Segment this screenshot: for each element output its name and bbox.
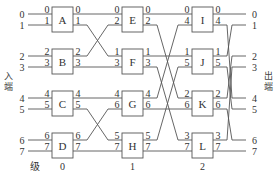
switch-out-port-label: 3 [146,57,151,68]
switch-in-port-label: 4 [185,15,190,26]
output-port-label: 1 [252,20,257,31]
switch-out-port-label: 4 [146,88,151,99]
switch-out-port-label: 2 [216,88,221,99]
stage-number-label: 1 [130,161,135,172]
switch-out-port-label: 1 [146,46,151,57]
switch-label: E [129,14,136,26]
switch-out-port-label: 4 [76,88,81,99]
switch-e: E0202 [115,4,151,33]
switch-label: F [129,56,135,68]
stage-number-label: 2 [200,161,205,172]
switch-d: D6767 [45,130,81,159]
switch-out-port-label: 3 [216,130,221,141]
switch-label: L [199,140,206,152]
switch-in-port-label: 6 [185,99,190,110]
switch-in-port-label: 7 [45,141,50,152]
input-port-label: 1 [20,20,25,31]
switch-in-port-label: 6 [115,99,120,110]
input-port-label: 4 [20,93,25,104]
stage-number-label: 0 [60,161,65,172]
switch-in-port-label: 3 [115,57,120,68]
switch-h: H5757 [115,130,151,159]
switch-in-port-label: 4 [115,88,120,99]
input-port-label: 2 [20,51,25,62]
switch-j: J1515 [185,46,221,75]
switch-out-port-label: 0 [216,4,221,15]
switch-in-port-label: 5 [185,57,190,68]
switch-out-port-label: 5 [146,130,151,141]
switch-a: A0101 [45,4,81,33]
input-side-label: 入端 [3,71,13,93]
switch-in-port-label: 7 [115,141,120,152]
switch-out-port-label: 3 [76,57,81,68]
switch-out-port-label: 2 [76,46,81,57]
stage-prefix-label: 级 [30,161,40,172]
switch-label: B [59,56,66,68]
switch-in-port-label: 0 [185,4,190,15]
switch-label: A [59,14,67,26]
switch-in-port-label: 0 [45,4,50,15]
switch-in-port-label: 6 [45,130,50,141]
switch-in-port-label: 5 [45,99,50,110]
switch-label: H [129,140,137,152]
switch-in-port-label: 1 [45,15,50,26]
switch-g: G4646 [115,88,151,117]
switch-label: I [201,14,205,26]
output-port-label: 2 [252,51,257,62]
switch-in-port-label: 1 [115,46,120,57]
switch-f: F1313 [115,46,151,75]
switch-label: J [200,56,205,68]
switch-in-port-label: 1 [185,46,190,57]
switch-in-port-label: 5 [115,130,120,141]
switch-b: B2323 [45,46,81,75]
switch-out-port-label: 6 [76,130,81,141]
switch-in-port-label: 4 [45,88,50,99]
switch-out-port-label: 0 [146,4,151,15]
switch-in-port-label: 2 [115,15,120,26]
switch-label: G [129,98,137,110]
switch-label: D [59,140,67,152]
output-port-label: 4 [252,93,257,104]
switch-l: L3737 [185,130,221,159]
switch-in-port-label: 3 [45,57,50,68]
input-port-label: 6 [20,135,25,146]
switch-label: C [59,98,66,110]
switch-c: C4545 [45,88,81,117]
switch-out-port-label: 7 [76,141,81,152]
switch-out-port-label: 7 [146,141,151,152]
output-port-label: 0 [252,9,257,20]
switch-out-port-label: 4 [216,15,221,26]
switch-out-port-label: 1 [76,15,81,26]
switch-label: K [199,98,207,110]
switch-k: K2626 [185,88,221,117]
switch-in-port-label: 3 [185,130,190,141]
switch-out-port-label: 6 [216,99,221,110]
switch-out-port-label: 2 [146,15,151,26]
output-port-label: 5 [252,104,257,115]
switch-in-port-label: 7 [185,141,190,152]
input-port-label: 5 [20,104,25,115]
switch-i: I0404 [185,4,221,33]
switch-in-port-label: 2 [45,46,50,57]
switch-out-port-label: 7 [216,141,221,152]
switch-out-port-label: 6 [146,99,151,110]
output-port-label: 6 [252,135,257,146]
input-port-label: 3 [20,62,25,73]
output-side-label: 出端 [263,71,273,93]
link-lines [28,14,246,151]
input-port-label: 0 [20,9,25,20]
switch-out-port-label: 1 [216,46,221,57]
output-port-label: 3 [252,62,257,73]
switch-out-port-label: 5 [76,99,81,110]
input-port-label: 7 [20,146,25,157]
switch-in-port-label: 0 [115,4,120,15]
switching-network-diagram: 0123456701234567A0101B2323C4545D6767E020… [0,0,277,186]
output-port-label: 7 [252,146,257,157]
switch-out-port-label: 5 [216,57,221,68]
switch-out-port-label: 0 [76,4,81,15]
switch-in-port-label: 2 [185,88,190,99]
